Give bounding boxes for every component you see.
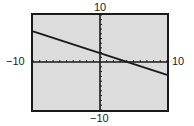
x-min-label: −10 — [6, 56, 25, 67]
y-min-label: −10 — [90, 113, 109, 124]
x-max-label: 10 — [172, 56, 184, 67]
y-max-label: 10 — [94, 2, 106, 13]
graph-window — [0, 0, 194, 126]
